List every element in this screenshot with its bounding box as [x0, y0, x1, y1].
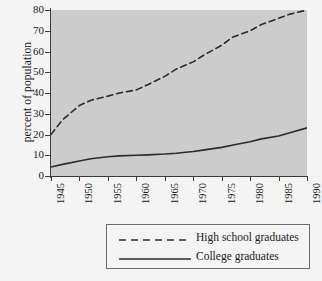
x-tick-1980 — [250, 176, 251, 181]
legend-item-high-school: High school graduates — [107, 228, 309, 248]
x-tick-1950 — [79, 176, 80, 181]
chart-figure: percent of population 01020304050607080 … — [0, 0, 322, 281]
y-tick-label-20: 20 — [4, 129, 44, 140]
x-tick-label-1950: 1950 — [84, 183, 95, 204]
legend-swatch-dashed — [118, 232, 192, 244]
dashed-line-icon — [118, 234, 192, 246]
x-tick-1970 — [193, 176, 194, 181]
x-tick-label-1965: 1965 — [170, 183, 181, 204]
y-tick-label-40: 40 — [4, 87, 44, 98]
series-line-college — [51, 128, 307, 167]
legend-label-college: College graduates — [196, 251, 279, 263]
solid-line-icon — [118, 253, 192, 265]
legend-swatch-solid — [118, 251, 192, 263]
y-tick-label-50: 50 — [4, 66, 44, 77]
y-tick-label-30: 30 — [4, 108, 44, 119]
x-tick-1965 — [165, 176, 166, 181]
x-tick-1955 — [108, 176, 109, 181]
x-tick-label-1990: 1990 — [312, 183, 322, 204]
x-tick-1975 — [222, 176, 223, 181]
y-tick-label-0: 0 — [4, 170, 44, 181]
x-tick-label-1985: 1985 — [284, 183, 295, 204]
x-axis-line — [50, 176, 308, 177]
x-tick-label-1960: 1960 — [141, 183, 152, 204]
chart-legend: High school graduates College graduates — [106, 224, 310, 269]
x-tick-label-1980: 1980 — [255, 183, 266, 204]
x-tick-1945 — [51, 176, 52, 181]
series-lines — [51, 10, 307, 176]
x-tick-label-1970: 1970 — [198, 183, 209, 204]
legend-item-college: College graduates — [107, 247, 309, 267]
y-tick-label-70: 70 — [4, 25, 44, 36]
x-tick-label-1975: 1975 — [227, 183, 238, 204]
y-tick-label-80: 80 — [4, 4, 44, 15]
x-tick-1960 — [136, 176, 137, 181]
x-tick-1985 — [279, 176, 280, 181]
legend-label-high-school: High school graduates — [196, 232, 299, 244]
y-tick-label-10: 10 — [4, 149, 44, 160]
series-line-high-school — [51, 10, 307, 135]
y-tick-label-60: 60 — [4, 46, 44, 57]
x-tick-1990 — [307, 176, 308, 181]
x-tick-label-1945: 1945 — [56, 183, 67, 204]
x-tick-label-1955: 1955 — [113, 183, 124, 204]
